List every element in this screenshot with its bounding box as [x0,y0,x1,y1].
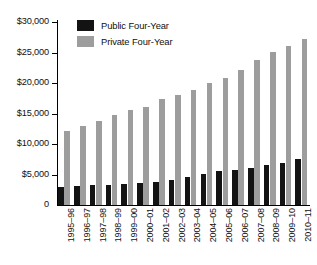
x-axis-label: 2002–03 [177,148,187,208]
y-axis-tick [52,53,58,54]
legend-swatch-public-icon [77,20,94,31]
legend-label-public: Public Four-Year [101,20,169,31]
x-axis-label: 2007–08 [256,148,266,208]
y-axis-tick [52,144,58,145]
x-axis-label: 2006–07 [240,148,250,208]
x-axis-label: 2009–10 [287,148,297,208]
x-axis-label: 2000–01 [145,148,155,208]
legend-item-public: Public Four-Year [77,20,172,31]
y-axis-tick [52,114,58,115]
legend-swatch-private-icon [77,36,94,47]
y-axis-tick [52,22,58,23]
x-axis-label: 1996–97 [82,148,92,208]
y-axis-label: $15,000 [17,108,49,118]
y-axis-tick [52,175,58,176]
y-axis-label: $5,000 [22,169,49,179]
y-axis-label: 0 [44,199,49,209]
y-axis-tick [52,83,58,84]
x-axis-label: 2001–02 [161,148,171,208]
chart-legend: Public Four-Year Private Four-Year [77,20,172,52]
x-axis-label: 1999–00 [129,148,139,208]
x-axis-label: 2005–06 [224,148,234,208]
legend-label-private: Private Four-Year [101,36,172,47]
x-axis-label: 1995–96 [66,148,76,208]
x-axis-label: 2003–04 [192,148,202,208]
x-axis-label: 2008–09 [271,148,281,208]
bar-public-1995–96 [58,187,64,205]
x-axis-label: 1998–99 [113,148,123,208]
y-axis-label: $20,000 [17,77,49,87]
y-axis-label: $10,000 [17,138,49,148]
x-axis-label: 2004–05 [208,148,218,208]
x-axis-label: 2010–11 [303,148,313,208]
y-axis-label: $25,000 [17,47,49,57]
bar-chart: Public Four-Year Private Four-Year $30,0… [0,0,317,265]
y-axis-label: $30,000 [17,16,49,26]
legend-item-private: Private Four-Year [77,36,172,47]
x-axis-label: 1997–98 [98,148,108,208]
